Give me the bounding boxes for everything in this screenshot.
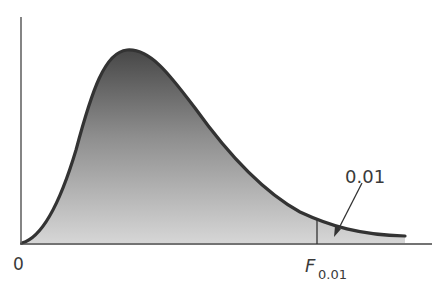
critical-value-subscript: 0.01	[318, 267, 347, 282]
critical-value-label: F	[305, 255, 316, 276]
density-area	[22, 50, 405, 243]
tail-area-label: 0.01	[345, 166, 385, 187]
origin-label: 0	[13, 254, 24, 274]
f-distribution-chart: 0 0.01 F 0.01	[0, 0, 447, 295]
